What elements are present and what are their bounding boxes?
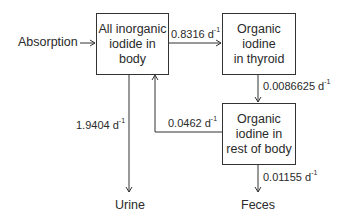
rate-thyroid-to-rest: 0.0086625 d-1: [263, 80, 330, 92]
rate-value: 0.01155 d: [263, 171, 311, 183]
compartment-thyroid-organic-iodine: Organic iodine in thyroid: [222, 13, 296, 75]
rate-rest-to-inorganic: 0.0462 d-1: [168, 117, 217, 129]
urine-label: Urine: [115, 198, 145, 212]
rate-exponent: -1: [311, 169, 317, 176]
compartment-rest-of-body-organic-iodine: Organic iodine in rest of body: [222, 103, 296, 165]
rate-exponent: -1: [214, 26, 220, 33]
feces-label: Feces: [241, 198, 275, 212]
absorption-label: Absorption: [18, 35, 78, 49]
compartment-inorganic-iodide: All inorganic iodide in body: [96, 13, 169, 75]
rate-inorganic-to-urine: 1.9404 d-1: [76, 119, 125, 131]
rate-exponent: -1: [119, 117, 125, 124]
rate-rest-to-feces: 0.01155 d-1: [263, 171, 317, 183]
rate-value: 0.8316 d: [171, 28, 214, 40]
rate-inorganic-to-thyroid: 0.8316 d-1: [171, 28, 220, 40]
rate-exponent: -1: [324, 78, 330, 85]
rate-value: 1.9404 d: [76, 119, 119, 131]
rate-value: 0.0086625 d: [263, 80, 324, 92]
rate-value: 0.0462 d: [168, 117, 211, 129]
rate-exponent: -1: [211, 115, 217, 122]
